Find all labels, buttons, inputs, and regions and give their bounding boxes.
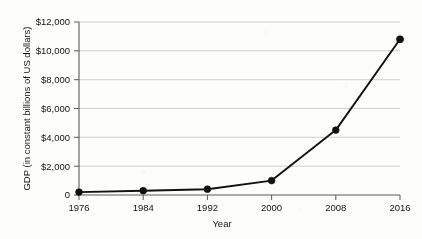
data-point-2016	[396, 36, 403, 43]
chart-plot-svg: $12,000 $10,000 $8,000 $6,000 $4,000 $2,…	[0, 0, 422, 239]
data-point-2008	[332, 127, 339, 134]
data-point-2000	[268, 177, 275, 184]
gdp-series-line	[79, 39, 400, 192]
x-tick-label-1992: 1992	[197, 202, 218, 213]
x-tick-label-1984: 1984	[133, 202, 154, 213]
x-tick-label-2000: 2000	[261, 202, 282, 213]
data-point-1984	[140, 187, 147, 194]
y-tick-label-2000: $2,000	[41, 161, 70, 172]
x-axis-title: Year	[212, 218, 231, 229]
x-tick-label-2016: 2016	[389, 202, 410, 213]
y-tick-labels: $12,000 $10,000 $8,000 $6,000 $4,000 $2,…	[36, 16, 70, 200]
x-tick-label-2008: 2008	[325, 202, 346, 213]
y-tick-label-10000: $10,000	[36, 45, 70, 56]
y-tick-label-0: 0	[65, 189, 70, 200]
y-tick-label-12000: $12,000	[36, 16, 70, 27]
y-tick-marks	[74, 22, 79, 195]
data-point-1992	[204, 186, 211, 193]
y-tick-label-8000: $8,000	[41, 74, 70, 85]
gridlines	[79, 22, 400, 166]
data-markers	[76, 36, 404, 196]
x-tick-labels: 1976 1984 1992 2000 2008 2016	[68, 202, 410, 213]
x-tick-marks	[79, 195, 400, 200]
data-point-1976	[76, 189, 83, 196]
x-tick-label-1976: 1976	[68, 202, 89, 213]
gdp-line-chart: $12,000 $10,000 $8,000 $6,000 $4,000 $2,…	[0, 0, 422, 239]
y-tick-label-4000: $4,000	[41, 132, 70, 143]
y-axis-title: GDP (in constant billions of US dollars)	[21, 26, 32, 190]
y-tick-label-6000: $6,000	[41, 103, 70, 114]
